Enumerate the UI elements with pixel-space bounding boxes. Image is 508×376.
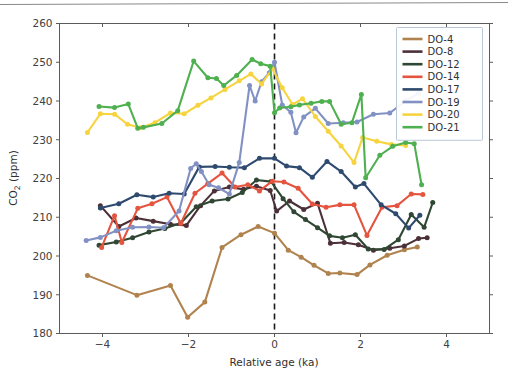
data-point [272, 231, 277, 236]
data-point [84, 238, 89, 243]
data-point [234, 73, 239, 78]
data-point [185, 315, 190, 320]
data-point [339, 122, 344, 127]
data-point [134, 293, 139, 298]
data-point [178, 221, 183, 226]
data-point [301, 207, 306, 212]
data-point [299, 255, 304, 260]
data-point [312, 263, 317, 268]
data-point [297, 165, 302, 170]
data-point [85, 273, 90, 278]
legend-label-do-12: DO-12 [428, 59, 460, 70]
data-point [112, 112, 117, 117]
data-point [112, 105, 117, 110]
data-point [363, 175, 368, 180]
data-point [151, 195, 156, 200]
data-point [268, 188, 273, 193]
data-point [340, 235, 345, 240]
data-point [159, 121, 164, 126]
data-point [379, 202, 384, 207]
data-point [395, 203, 400, 208]
data-point [125, 122, 130, 127]
data-point [192, 191, 197, 196]
data-point [98, 235, 103, 240]
data-point [382, 247, 387, 252]
data-point [221, 83, 226, 88]
y-tick-label: 260 [32, 17, 52, 29]
legend-label-do-20: DO-20 [428, 109, 460, 120]
data-point [337, 202, 342, 207]
data-point [245, 182, 250, 187]
data-point [130, 225, 135, 230]
data-point [213, 164, 218, 169]
data-point [210, 198, 215, 203]
data-point [301, 114, 306, 119]
data-point [309, 101, 314, 106]
y-tick-label: 210 [32, 211, 52, 223]
data-point [258, 61, 263, 66]
data-point [296, 186, 301, 191]
data-point [409, 192, 414, 197]
y-tick-label: 250 [32, 56, 52, 68]
data-point [310, 202, 315, 207]
data-point [303, 217, 308, 222]
data-point [294, 130, 299, 135]
data-point [339, 143, 344, 148]
data-point [168, 283, 173, 288]
data-point [339, 169, 344, 174]
data-point [188, 166, 193, 171]
data-point [151, 219, 156, 224]
data-point [356, 242, 361, 247]
data-point [272, 60, 277, 65]
y-tick-label: 220 [32, 172, 52, 184]
data-point [374, 139, 379, 144]
data-point [141, 125, 146, 130]
data-point [247, 83, 252, 88]
data-point [226, 197, 231, 202]
data-point [242, 165, 247, 170]
x-tick-label: 4 [443, 338, 450, 350]
data-point [259, 81, 264, 86]
data-point [412, 141, 417, 146]
data-point [277, 105, 282, 110]
data-point [417, 213, 422, 218]
data-point [99, 245, 104, 250]
data-point [85, 130, 90, 135]
data-point [352, 202, 357, 207]
x-tick-label: −2 [181, 338, 196, 350]
data-point [126, 102, 131, 107]
y-tick-label: 230 [32, 134, 52, 146]
data-point [254, 178, 259, 183]
data-point [280, 85, 285, 90]
x-tick-label: 2 [357, 338, 364, 350]
x-tick-label: 0 [271, 338, 278, 350]
data-point [349, 120, 354, 125]
data-point [288, 104, 293, 109]
data-point [281, 196, 286, 201]
data-point [114, 240, 119, 245]
data-point [146, 229, 151, 234]
data-point [248, 71, 253, 76]
data-point [342, 240, 347, 245]
data-point [326, 121, 331, 126]
data-point [194, 204, 199, 209]
data-point [207, 182, 212, 187]
data-point [214, 76, 219, 81]
data-point [371, 112, 376, 117]
chart-legend[interactable]: DO-4DO-8DO-12DO-14DO-17DO-19DO-20DO-21 [397, 28, 483, 141]
data-point [135, 126, 140, 131]
data-point [130, 235, 135, 240]
data-point [98, 205, 103, 210]
data-point [146, 224, 151, 229]
data-point [272, 110, 277, 115]
data-point [367, 262, 372, 267]
data-point [205, 75, 210, 80]
data-point [256, 224, 261, 229]
data-point [240, 190, 245, 195]
data-point [390, 144, 395, 149]
data-point [220, 171, 225, 176]
data-point [313, 114, 318, 119]
data-point [191, 59, 196, 64]
data-point [430, 200, 435, 205]
data-point [355, 272, 360, 277]
